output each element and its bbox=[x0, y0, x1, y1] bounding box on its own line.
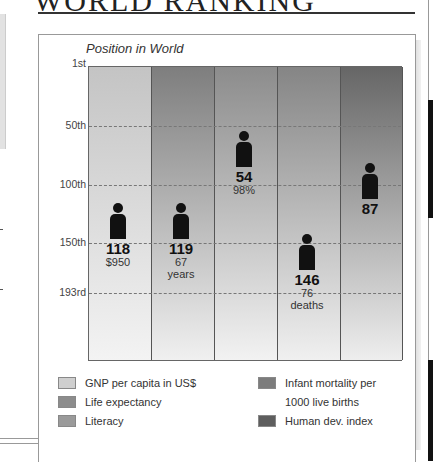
detail-value: years bbox=[151, 268, 211, 280]
y-tick-50th: 50th bbox=[66, 119, 86, 131]
person-icon bbox=[362, 163, 378, 199]
adjacent-rule bbox=[0, 438, 40, 439]
y-tick-150th: 150th bbox=[60, 236, 86, 248]
detail-value: deaths bbox=[277, 299, 337, 311]
marker-infant-mortality: 146 76 deaths bbox=[277, 234, 337, 311]
rank-value: 54 bbox=[214, 169, 274, 184]
adjacent-black-bar bbox=[428, 100, 433, 218]
chart-title: Position in World bbox=[86, 41, 184, 56]
rank-value: 87 bbox=[340, 201, 400, 216]
person-icon bbox=[299, 234, 315, 270]
page-title: WORLD RANKING bbox=[34, 0, 316, 18]
marker-human-dev-index: 87 bbox=[340, 163, 400, 216]
gridline-193rd bbox=[89, 293, 401, 294]
person-icon bbox=[110, 203, 126, 239]
adjacent-black-bar bbox=[428, 360, 433, 461]
legend-swatch bbox=[58, 415, 76, 427]
detail-value: $950 bbox=[88, 256, 148, 268]
detail-value: 76 bbox=[277, 287, 337, 299]
y-tick-1st: 1st bbox=[72, 57, 86, 69]
detail-value: 67 bbox=[151, 256, 211, 268]
detail-value: 98% bbox=[214, 184, 274, 196]
legend-swatch bbox=[258, 377, 276, 389]
y-tick-100th: 100th bbox=[60, 178, 86, 190]
rank-value: 146 bbox=[277, 272, 337, 287]
adjacent-panel-edge bbox=[0, 14, 6, 149]
marker-gnp: 118 $950 bbox=[88, 203, 148, 268]
adjacent-tick bbox=[0, 229, 3, 230]
column-infant-mortality bbox=[278, 67, 341, 360]
marker-literacy: 54 98% bbox=[214, 131, 274, 196]
legend-swatch bbox=[258, 415, 276, 427]
marker-life-expectancy: 119 67 years bbox=[151, 203, 211, 280]
y-tick-193rd: 193rd bbox=[59, 286, 86, 298]
column-literacy bbox=[215, 67, 278, 360]
gridline-50th bbox=[89, 126, 401, 127]
adjacent-tick bbox=[0, 289, 3, 290]
legend-swatch bbox=[58, 377, 76, 389]
adjacent-rule bbox=[0, 443, 40, 444]
title-rule bbox=[38, 12, 415, 14]
legend-swatch bbox=[58, 396, 76, 408]
person-icon bbox=[236, 131, 252, 167]
rank-value: 118 bbox=[88, 241, 148, 256]
rank-value: 119 bbox=[151, 241, 211, 256]
person-icon bbox=[173, 203, 189, 239]
